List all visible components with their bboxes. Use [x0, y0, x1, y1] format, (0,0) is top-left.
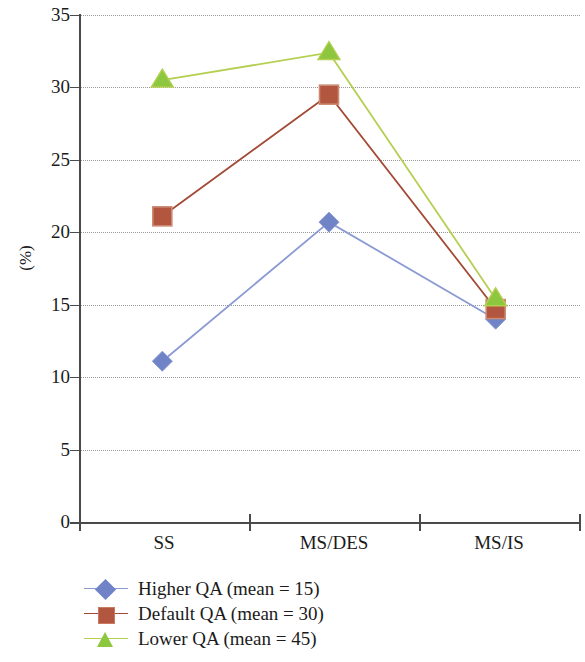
x-tick-mark: [79, 514, 81, 531]
gridline: [79, 15, 580, 17]
plot-area: [0, 0, 585, 662]
data-point-0-1: [319, 212, 339, 232]
x-axis-line: [70, 522, 581, 524]
y-axis-label: (%): [16, 238, 36, 278]
y-tick-label-5: 5: [34, 440, 70, 459]
y-tick-mark: [70, 450, 79, 451]
y-tick-mark: [70, 15, 79, 16]
y-tick-label-35: 35: [34, 5, 70, 24]
y-tick-mark: [70, 232, 79, 233]
y-tick-label-30: 30: [34, 77, 70, 96]
legend-item-default-qa[interactable]: Default QA (mean = 30): [84, 601, 414, 626]
y-tick-mark: [70, 377, 79, 378]
gridline: [79, 87, 580, 89]
y-tick-label-15: 15: [34, 295, 70, 314]
data-point-0-0: [152, 351, 172, 371]
y-tick-label-10: 10: [34, 367, 70, 386]
y-tick-mark: [70, 87, 79, 88]
gridline: [79, 232, 580, 234]
gridline: [79, 160, 580, 162]
x-tick-label-msis: MS/IS: [414, 532, 584, 554]
x-tick-label-ss: SS: [79, 532, 249, 554]
legend-label-lower-qa: Lower QA (mean = 45): [128, 628, 317, 650]
y-tick-label-25: 25: [34, 150, 70, 169]
x-tick-mark: [419, 514, 421, 531]
legend-key-lower-qa: [84, 628, 128, 650]
diamond-marker-icon: [95, 578, 116, 599]
legend-label-default-qa: Default QA (mean = 30): [128, 603, 324, 625]
gridline: [79, 377, 580, 379]
x-tick-mark: [249, 514, 251, 531]
square-marker-icon: [98, 607, 115, 624]
data-point-2-2: [485, 288, 507, 306]
x-tick-mark: [579, 514, 581, 531]
series-line-0: [162, 222, 495, 361]
data-point-0-2: [486, 309, 506, 329]
line-chart-figure: (%) 35 30 25 20 15 10 5 0 SS MS/: [0, 0, 585, 662]
legend-label-higher-qa: Higher QA (mean = 15): [128, 578, 320, 600]
y-tick-mark: [70, 160, 79, 161]
legend-key-default-qa: [84, 603, 128, 625]
data-point-2-0: [151, 69, 173, 87]
y-tick-mark: [70, 305, 79, 306]
y-tick-label-20: 20: [34, 222, 70, 241]
gridline: [79, 450, 580, 452]
triangle-marker-icon: [97, 632, 113, 647]
series-line-1: [162, 95, 495, 309]
x-tick-label-msdes: MS/DES: [249, 532, 419, 554]
legend-item-higher-qa[interactable]: Higher QA (mean = 15): [84, 576, 414, 601]
legend-key-higher-qa: [84, 578, 128, 600]
y-tick-label-0: 0: [34, 512, 70, 531]
data-point-1-2: [486, 300, 505, 319]
gridline: [79, 305, 580, 307]
legend: Higher QA (mean = 15) Default QA (mean =…: [84, 576, 414, 651]
legend-item-lower-qa[interactable]: Lower QA (mean = 45): [84, 626, 414, 651]
series-line-2: [162, 53, 495, 299]
y-axis-line: [79, 14, 81, 523]
data-point-2-1: [318, 42, 340, 60]
data-point-1-0: [153, 207, 172, 226]
